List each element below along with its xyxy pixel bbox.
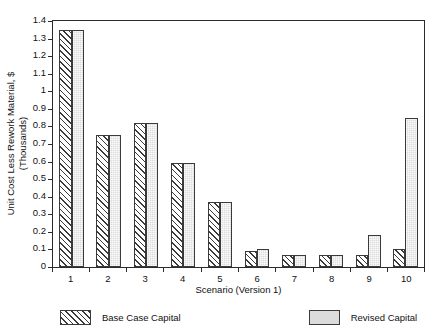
x-axis-tick: 8 (313, 268, 350, 284)
y-axis-tick-label: 0.4 (33, 190, 46, 201)
bar-groups (53, 21, 424, 267)
y-axis-tick-label: 0.2 (33, 225, 46, 236)
bar-revised (72, 30, 84, 267)
bar-revised (368, 235, 380, 267)
bar-base-case (245, 251, 257, 267)
x-axis-tick-mark (387, 268, 388, 272)
bar-group (387, 21, 424, 267)
x-axis-tick: 4 (164, 268, 201, 284)
x-axis-tick: 9 (350, 268, 387, 284)
bar-base-case (171, 163, 183, 267)
plot-area: 1.41.31.21.110.90.80.70.60.50.40.30.20.1… (52, 20, 425, 268)
y-axis-tick-label: 1.2 (33, 49, 46, 60)
bar-group (313, 21, 350, 267)
x-axis-tick-label: 2 (89, 273, 126, 284)
x-axis-tick-label: 1 (52, 273, 89, 284)
y-axis-tick-label: 0.6 (33, 155, 46, 166)
y-axis-tick-label: 0 (41, 260, 46, 271)
x-axis-tick-mark (126, 268, 127, 272)
bar-revised (109, 135, 121, 267)
y-axis-tick-label: 0.1 (33, 242, 46, 253)
x-axis-tick-mark (89, 268, 90, 272)
bar-group (238, 21, 275, 267)
bar-base-case (393, 249, 405, 267)
bar-group (90, 21, 127, 267)
bar-chart: Unit Cost Less Rework Material, $ (Thous… (0, 0, 436, 334)
legend-item-base-case: Base Case Capital (60, 310, 181, 325)
x-axis-tick-mark (424, 268, 425, 272)
bar-base-case (96, 135, 108, 267)
bar-base-case (134, 123, 146, 267)
x-axis-tick-mark (201, 268, 202, 272)
y-axis-tick-label: 1.4 (33, 14, 46, 25)
legend-label-base-case: Base Case Capital (102, 312, 181, 323)
bar-group (127, 21, 164, 267)
bar-base-case (356, 255, 368, 267)
legend-item-revised: Revised Capital (309, 310, 418, 325)
x-axis-tick-mark (313, 268, 314, 272)
x-axis-tick-mark (52, 268, 53, 272)
x-axis-tick: 2 (89, 268, 126, 284)
bar-revised (405, 118, 417, 267)
x-axis-tick: 7 (276, 268, 313, 284)
bar-revised (183, 163, 195, 267)
x-axis-tick-mark (238, 268, 239, 272)
bar-group (164, 21, 201, 267)
x-axis-tick-mark (275, 268, 276, 272)
x-axis-tick: 10 (388, 268, 425, 284)
bar-group (350, 21, 387, 267)
x-axis-tick-label: 9 (350, 273, 387, 284)
x-axis-tick: 1 (52, 268, 89, 284)
x-axis-tick: 5 (201, 268, 238, 284)
x-axis-tick-label: 8 (313, 273, 350, 284)
x-axis-tick-label: 3 (127, 273, 164, 284)
bar-base-case (319, 255, 331, 267)
x-axis-tick-label: 6 (238, 273, 275, 284)
bar-base-case (282, 255, 294, 267)
y-axis-tick-label: 0.8 (33, 119, 46, 130)
y-axis-tick-label: 1 (41, 84, 46, 95)
y-axis-title-line-1: Unit Cost Less Rework Material, $ (6, 71, 18, 215)
y-axis-tick-label: 0.7 (33, 137, 46, 148)
bar-revised (257, 249, 269, 267)
legend-swatch-base-case (60, 310, 91, 325)
x-axis-tick-label: 4 (164, 273, 201, 284)
legend-label-revised: Revised Capital (351, 312, 418, 323)
x-axis-tick-label: 5 (201, 273, 238, 284)
y-axis-tick-label: 1.1 (33, 67, 46, 78)
y-axis-title: Unit Cost Less Rework Material, $ (Thous… (0, 0, 34, 286)
bar-group (53, 21, 90, 267)
x-axis-title: Scenario (Version 1) (52, 284, 425, 295)
bar-group (201, 21, 238, 267)
bar-revised (146, 123, 158, 267)
y-axis-tick-label: 0.5 (33, 172, 46, 183)
x-axis-tick-label: 10 (388, 273, 425, 284)
x-axis-ticks: 12345678910 (52, 268, 425, 284)
x-axis-tick: 6 (238, 268, 275, 284)
x-axis-tick-mark (163, 268, 164, 272)
y-axis-tick-label: 0.9 (33, 102, 46, 113)
y-axis-tick-label: 1.3 (33, 32, 46, 43)
x-axis-tick-mark (350, 268, 351, 272)
y-axis-tick-label: 0.3 (33, 207, 46, 218)
legend-swatch-revised (309, 310, 340, 325)
y-axis-title-line-2: (Thousands) (17, 71, 29, 215)
bar-revised (220, 202, 232, 267)
chart-legend: Base Case Capital Revised Capital (52, 306, 425, 328)
x-axis-tick: 3 (127, 268, 164, 284)
bar-base-case (208, 202, 220, 267)
bar-group (276, 21, 313, 267)
x-axis-tick-label: 7 (276, 273, 313, 284)
bar-revised (331, 255, 343, 267)
bar-base-case (59, 30, 71, 267)
bar-revised (294, 255, 306, 267)
